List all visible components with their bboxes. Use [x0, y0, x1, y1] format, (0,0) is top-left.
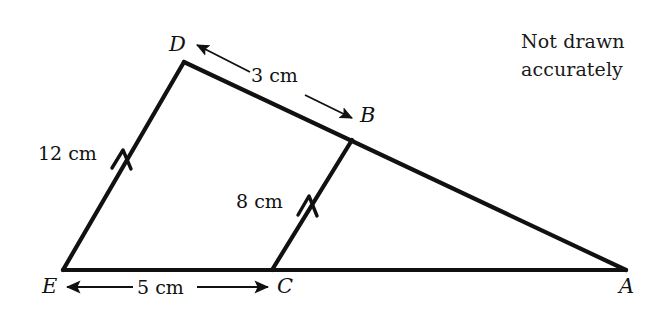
dimension-label-db: 3 cm [251, 64, 298, 86]
vertex-label-B: B [360, 103, 375, 127]
vertex-label-D: D [169, 32, 186, 56]
vertex-label-E: E [42, 274, 57, 298]
dim-arrow-3cm-left [197, 45, 250, 72]
vertex-label-C: C [277, 274, 293, 298]
side-ED [63, 62, 184, 270]
dimension-label-ed: 12 cm [38, 142, 97, 164]
dimension-label-cb: 8 cm [236, 190, 283, 212]
dimension-label-ec: 5 cm [137, 276, 184, 298]
side-DA [184, 62, 626, 270]
not-drawn-accurately-note-line1: Not drawn [521, 30, 625, 52]
dim-arrow-3cm-right [305, 95, 352, 118]
vertex-label-A: A [619, 274, 634, 298]
diagram-canvas: D B E C A 3 cm 12 cm 8 cm 5 cm Not drawn… [0, 0, 669, 319]
not-drawn-accurately-note-line2: accurately [521, 58, 623, 80]
